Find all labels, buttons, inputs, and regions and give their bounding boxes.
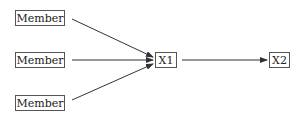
node-label: Member — [16, 13, 63, 24]
node-member-3: Member — [15, 95, 65, 111]
node-x2: X2 — [269, 52, 290, 68]
diagram-canvas: Member Member Member X1 X2 — [0, 0, 302, 117]
node-label: X2 — [272, 55, 287, 66]
node-label: X1 — [159, 55, 174, 66]
node-member-1: Member — [15, 10, 65, 26]
edge-member3-to-x1 — [72, 64, 153, 100]
edge-member1-to-x1 — [72, 19, 153, 57]
node-member-2: Member — [15, 52, 65, 68]
node-x1: X1 — [155, 52, 177, 68]
node-label: Member — [16, 98, 63, 109]
node-label: Member — [16, 55, 63, 66]
